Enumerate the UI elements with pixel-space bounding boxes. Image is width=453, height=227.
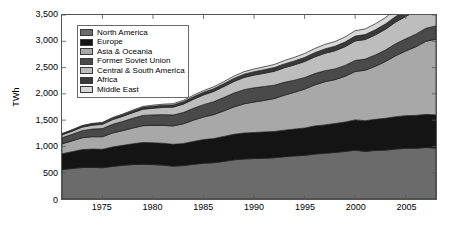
y-tick-label: 1,500 bbox=[14, 116, 58, 125]
legend-swatch-icon bbox=[80, 29, 93, 36]
legend-swatch-icon bbox=[80, 67, 93, 74]
legend-item: Europe bbox=[80, 38, 185, 47]
x-tick-label: 1980 bbox=[132, 203, 172, 212]
x-tick-label: 1975 bbox=[82, 203, 122, 212]
y-tick-label: 3,000 bbox=[14, 36, 58, 45]
y-tick-label: 500 bbox=[14, 169, 58, 178]
y-axis-tick-labels: 05001,0001,5002,0002,5003,0003,500 bbox=[10, 0, 58, 227]
legend-swatch-icon bbox=[80, 58, 93, 65]
legend-item: Middle East bbox=[80, 85, 185, 94]
x-tick-label: 1990 bbox=[234, 203, 274, 212]
chart-legend: North AmericaEuropeAsia & OceaniaFormer … bbox=[77, 25, 189, 98]
legend-item-label: Asia & Oceania bbox=[97, 48, 152, 56]
legend-item: North America bbox=[80, 28, 185, 37]
x-tick-label: 1985 bbox=[183, 203, 223, 212]
y-tick-label: 0 bbox=[14, 196, 58, 205]
chart-container: TWh 05001,0001,5002,0002,5003,0003,500 1… bbox=[0, 0, 453, 227]
legend-item: Former Soviet Union bbox=[80, 57, 185, 66]
y-tick-label: 2,500 bbox=[14, 63, 58, 72]
legend-swatch-icon bbox=[80, 77, 93, 84]
y-tick-label: 2,000 bbox=[14, 89, 58, 98]
legend-item-label: Former Soviet Union bbox=[97, 57, 170, 65]
y-tick-label: 1,000 bbox=[14, 142, 58, 151]
x-tick-label: 2005 bbox=[387, 203, 427, 212]
legend-item: Asia & Oceania bbox=[80, 47, 185, 56]
x-tick-label: 1995 bbox=[285, 203, 325, 212]
legend-item-label: Middle East bbox=[97, 86, 139, 94]
legend-swatch-icon bbox=[80, 39, 93, 46]
legend-item-label: Africa bbox=[97, 76, 117, 84]
legend-item: Africa bbox=[80, 76, 185, 85]
legend-swatch-icon bbox=[80, 48, 93, 55]
legend-swatch-icon bbox=[80, 86, 93, 93]
legend-item-label: North America bbox=[97, 29, 148, 37]
x-tick-label: 2000 bbox=[336, 203, 376, 212]
legend-item-label: Europe bbox=[97, 38, 123, 46]
legend-item: Central & South America bbox=[80, 66, 185, 75]
legend-item-label: Central & South America bbox=[97, 67, 185, 75]
y-tick-label: 3,500 bbox=[14, 10, 58, 19]
